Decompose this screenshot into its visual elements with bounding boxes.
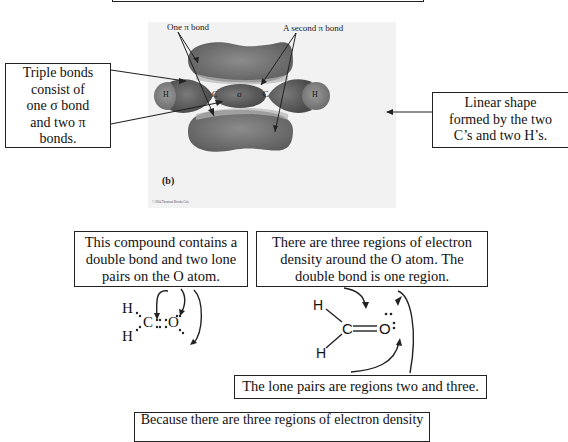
lewis-c: C: [143, 314, 153, 331]
callout-line: There are three regions of electron: [257, 234, 487, 251]
callout-line: double bond and two lone: [75, 251, 247, 268]
lewis-h-top: H: [122, 300, 133, 317]
line-c: C: [342, 320, 353, 337]
callout-line: pairs on the O atom.: [75, 268, 247, 285]
lone-pairs-callout: The lone pairs are regions two and three…: [234, 375, 487, 399]
callout-text: The lone pairs are regions two and three…: [242, 378, 479, 394]
three-regions-callout: There are three regions of electron dens…: [256, 231, 488, 287]
callout-text: Because there are three regions of elect…: [141, 412, 424, 427]
lewis-o: O: [168, 314, 179, 331]
callout-line: double bond is one region.: [257, 268, 487, 285]
line-h-bottom: H: [316, 345, 326, 361]
callout-line: This compound contains a: [75, 234, 247, 251]
callout-line: density around the O atom. The: [257, 251, 487, 268]
line-o: O: [379, 320, 391, 337]
lewis-h-bottom: H: [122, 328, 133, 345]
line-h-top: H: [313, 297, 323, 313]
compound-callout: This compound contains a double bond and…: [74, 231, 248, 287]
because-callout: Because there are three regions of elect…: [134, 412, 430, 442]
